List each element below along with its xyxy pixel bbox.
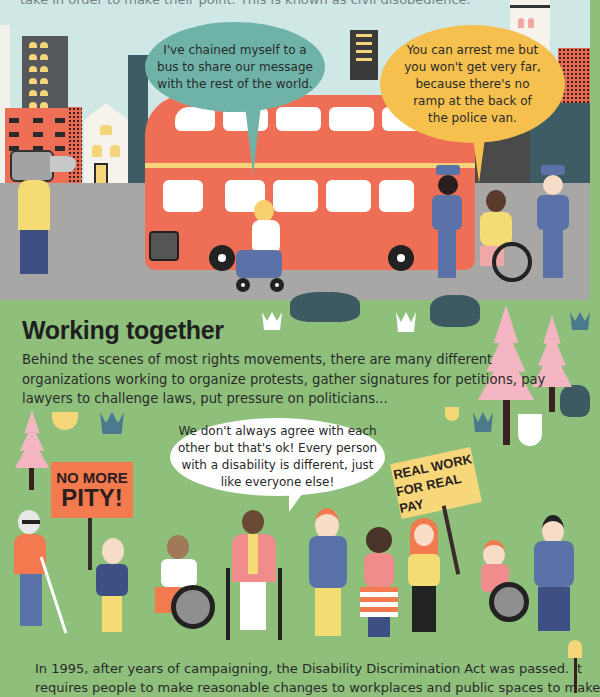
building-tower-center bbox=[350, 30, 378, 80]
person-with-crutches bbox=[222, 510, 284, 635]
speech-bubble-group: We don't always agree with each other bu… bbox=[170, 418, 385, 496]
section-paragraph: Behind the scenes of most rights movemen… bbox=[22, 350, 545, 409]
pink-tree-3 bbox=[15, 410, 49, 490]
yellow-flower-bottom bbox=[568, 640, 582, 658]
person-sunglasses-with-sign bbox=[400, 518, 448, 636]
yellow-flower-2 bbox=[445, 407, 459, 421]
speech-bubble-wheelchair-protester: You can arrest me but you won't get very… bbox=[380, 25, 565, 143]
person-redhead-blue-jacket bbox=[305, 508, 350, 638]
woman-on-scooter bbox=[232, 200, 292, 298]
bush-2 bbox=[430, 295, 480, 327]
bubble-tail-yellow bbox=[473, 138, 485, 183]
building-white-house bbox=[84, 103, 128, 188]
protester-in-wheelchair-chained bbox=[470, 190, 530, 288]
police-officer-bearded bbox=[432, 165, 462, 280]
flower-stem-bottom bbox=[574, 658, 577, 693]
speech-bubble-chained-woman: I've chained myself to a bus to share ou… bbox=[145, 22, 325, 112]
bus-wheel-rear bbox=[388, 245, 414, 271]
building-tower-dark bbox=[22, 36, 68, 116]
intro-text-fragment: take in order to make their point. This … bbox=[20, 0, 471, 7]
person-with-sign-left bbox=[92, 538, 132, 636]
person-striped-skirt bbox=[358, 527, 400, 637]
person-dark-blue-jacket bbox=[530, 515, 578, 635]
camera-operator bbox=[10, 150, 80, 285]
child-in-wheelchair bbox=[465, 540, 530, 630]
bus-grille bbox=[149, 231, 179, 261]
police-officer-redhead bbox=[535, 165, 571, 280]
street-protest-scene: take in order to make their point. This … bbox=[0, 0, 590, 300]
person-wheelchair-raised-fist bbox=[145, 535, 215, 635]
protest-sign-no-more-pity: NO MORE PITY! bbox=[51, 462, 133, 518]
bubble-tail-teal bbox=[245, 105, 261, 175]
person-blind-with-cane bbox=[8, 510, 60, 630]
bush-1 bbox=[290, 292, 360, 322]
section-title: Working together bbox=[22, 316, 224, 345]
footer-paragraph: In 1995, after years of campaigning, the… bbox=[35, 659, 600, 697]
